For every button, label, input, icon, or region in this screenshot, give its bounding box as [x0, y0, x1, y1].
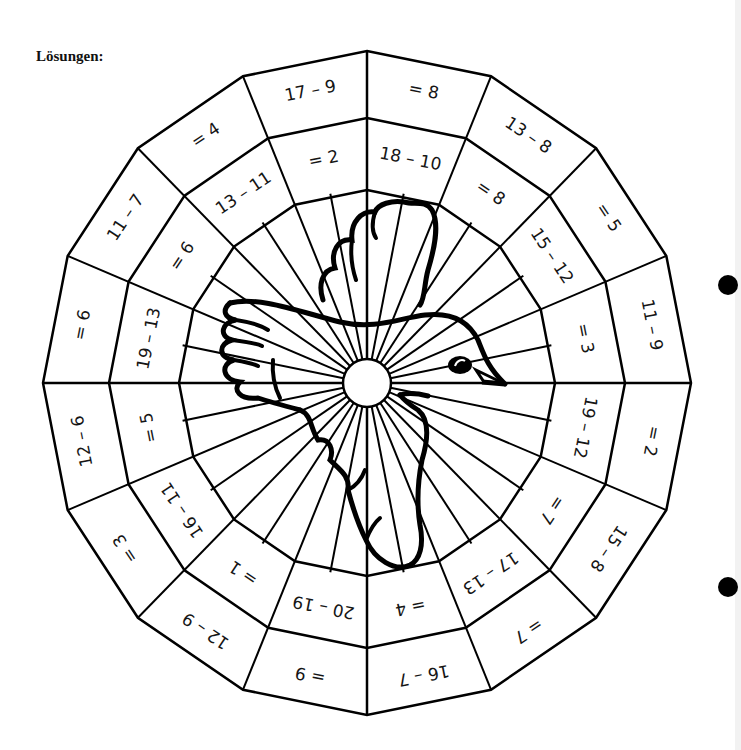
- worksheet-page: Lösungen: = 818 – 1013 – 8= 8= 515 – 121…: [0, 0, 741, 750]
- wheel-hub: [343, 359, 391, 407]
- math-wheel: = 818 – 1013 – 8= 8= 515 – 1211 – 9= 3= …: [0, 0, 741, 750]
- punch-hole-top: [718, 275, 738, 295]
- punch-hole-bottom: [718, 577, 738, 597]
